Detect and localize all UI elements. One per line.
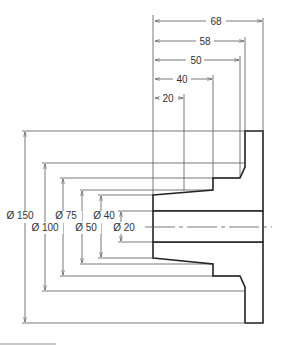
dim-50: 50 — [155, 55, 239, 66]
dia-40-label: Ø 40 — [93, 210, 115, 221]
technical-drawing: 68 58 50 40 20 — [0, 0, 282, 345]
dia-20-label: Ø 20 — [113, 222, 135, 233]
dia-150-label: Ø 150 — [6, 210, 34, 221]
bore — [153, 211, 263, 242]
dim-58-label: 58 — [199, 36, 211, 47]
section-upper — [153, 131, 263, 211]
dim-58: 58 — [155, 36, 244, 47]
section-lower — [153, 242, 263, 323]
dia-100-label: Ø 100 — [31, 222, 59, 233]
dia-75-label: Ø 75 — [55, 210, 77, 221]
dim-68-label: 68 — [210, 16, 222, 27]
diameter-dimensions: Ø 150 Ø 100 Ø 75 Ø 50 Ø 40 Ø 20 — [2, 132, 136, 322]
dim-20-label: 20 — [162, 93, 174, 104]
dia-50-label: Ø 50 — [75, 222, 97, 233]
dim-68: 68 — [155, 16, 262, 27]
length-dimensions: 68 58 50 40 20 — [155, 16, 262, 104]
dim-40: 40 — [155, 74, 212, 85]
dim-40-label: 40 — [176, 74, 188, 85]
dim-20: 20 — [155, 93, 183, 104]
dim-50-label: 50 — [190, 55, 202, 66]
